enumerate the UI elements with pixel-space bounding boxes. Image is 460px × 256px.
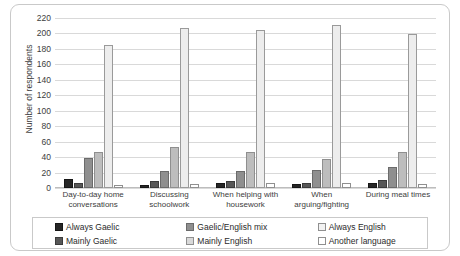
bar: [160, 171, 169, 188]
bar: [302, 183, 311, 188]
bar: [246, 152, 255, 188]
y-axis-tick-label: 20: [42, 168, 51, 178]
legend-swatch: [55, 237, 63, 245]
bar: [114, 185, 123, 188]
legend-swatch: [318, 237, 326, 245]
legend-swatch: [186, 223, 194, 231]
y-axis-tick-label: 100: [37, 106, 51, 116]
legend-item[interactable]: Always English: [296, 220, 427, 234]
bar-group: [207, 18, 283, 188]
legend-label: Gaelic/English mix: [197, 220, 267, 234]
bar: [368, 183, 377, 188]
bar: [236, 171, 245, 188]
y-axis-title: Number of respondents: [24, 24, 34, 154]
bar-group: [55, 18, 131, 188]
legend-item[interactable]: Another language: [296, 234, 427, 248]
y-axis-tick-label: 180: [37, 44, 51, 54]
chart-legend: Always GaelicGaelic/English mixAlways En…: [32, 217, 428, 249]
bar-group: [131, 18, 207, 188]
legend-item[interactable]: Gaelic/English mix: [164, 220, 295, 234]
legend-item[interactable]: Mainly Gaelic: [33, 234, 164, 248]
y-axis-tick-label: 140: [37, 75, 51, 85]
y-axis-tick-label: 120: [37, 90, 51, 100]
y-axis-tick-label: 220: [37, 13, 51, 23]
bar: [292, 184, 301, 188]
x-axis-label: When arguing/fighting: [284, 190, 360, 210]
x-axis-label: When helping with housework: [207, 190, 283, 210]
y-axis-tick-label: 60: [42, 137, 51, 147]
legend-label: Another language: [329, 234, 396, 248]
legend-label: Mainly English: [197, 234, 252, 248]
bar: [378, 180, 387, 189]
legend-swatch: [55, 223, 63, 231]
bar: [74, 183, 83, 188]
bar: [104, 45, 113, 188]
x-axis-label: Day-to-day home conversations: [55, 190, 131, 210]
bar: [94, 152, 103, 188]
chart-container: Number of respondents 220200180160140120…: [10, 4, 450, 251]
bar-groups: [55, 18, 436, 188]
y-axis-tick-label: 40: [42, 152, 51, 162]
bar: [180, 28, 189, 188]
bar-group: [284, 18, 360, 188]
legend-item[interactable]: Mainly English: [164, 234, 295, 248]
x-axis-label: During meal times: [360, 190, 436, 210]
bar: [266, 183, 275, 188]
y-axis-tick-label: 160: [37, 59, 51, 69]
bar: [256, 30, 265, 188]
plot-area: 220200180160140120100806040200: [55, 18, 436, 188]
y-axis-tick-label: 0: [46, 183, 51, 193]
bar: [190, 184, 199, 188]
bar: [312, 170, 321, 188]
legend-item[interactable]: Always Gaelic: [33, 220, 164, 234]
y-axis-tick-label: 80: [42, 121, 51, 131]
bar: [170, 147, 179, 188]
bar: [398, 152, 407, 188]
bar: [64, 179, 73, 188]
legend-swatch: [186, 237, 194, 245]
bar: [226, 181, 235, 188]
bar: [216, 183, 225, 188]
x-axis-label: Discussing schoolwork: [131, 190, 207, 210]
x-axis-labels: Day-to-day home conversationsDiscussing …: [55, 190, 436, 210]
legend-label: Mainly Gaelic: [66, 234, 117, 248]
legend-label: Always English: [329, 220, 386, 234]
legend-swatch: [318, 223, 326, 231]
y-axis-tick-label: 200: [37, 28, 51, 38]
gridline: 0: [55, 188, 436, 189]
bar-group: [360, 18, 436, 188]
bar: [388, 167, 397, 188]
bar: [140, 185, 149, 188]
bar: [408, 34, 417, 188]
legend-label: Always Gaelic: [66, 220, 119, 234]
bar: [418, 184, 427, 188]
bar: [332, 25, 341, 188]
bar: [84, 158, 93, 188]
bar: [150, 181, 159, 188]
bar: [342, 183, 351, 188]
bar: [322, 159, 331, 188]
